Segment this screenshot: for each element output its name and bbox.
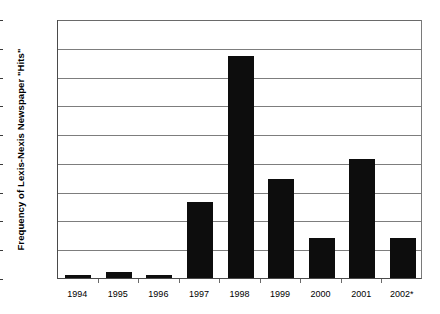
y-tick-mark — [0, 164, 3, 165]
bar — [146, 275, 172, 278]
y-tick-mark — [0, 193, 3, 194]
y-axis-title: Frequency of Lexis-Nexis Newspaper "Hits… — [10, 20, 30, 279]
bar-chart: Frequency of Lexis-Nexis Newspaper "Hits… — [0, 0, 440, 314]
x-tick-mark — [138, 279, 139, 283]
y-tick-mark — [0, 279, 3, 280]
y-tick-mark — [0, 49, 3, 50]
gridline — [58, 20, 421, 21]
bar — [309, 238, 335, 278]
x-tick-mark — [219, 279, 220, 283]
bar — [268, 179, 294, 278]
x-tick-mark — [341, 279, 342, 283]
gridline — [58, 49, 421, 50]
x-tick-mark — [381, 279, 382, 283]
y-tick-mark — [0, 221, 3, 222]
x-tick-mark — [98, 279, 99, 283]
bar — [187, 202, 213, 278]
bar — [106, 272, 132, 278]
y-tick-mark — [0, 250, 3, 251]
y-tick-mark — [0, 106, 3, 107]
bar — [349, 159, 375, 278]
x-tick-mark — [300, 279, 301, 283]
x-tick-label: 2002* — [377, 289, 427, 299]
bar — [228, 56, 254, 278]
plot-area — [57, 20, 422, 279]
y-tick-mark — [0, 135, 3, 136]
x-tick-mark — [260, 279, 261, 283]
bar — [390, 238, 416, 278]
bar — [65, 275, 91, 278]
y-tick-mark — [0, 20, 3, 21]
y-tick-mark — [0, 78, 3, 79]
x-tick-mark — [179, 279, 180, 283]
